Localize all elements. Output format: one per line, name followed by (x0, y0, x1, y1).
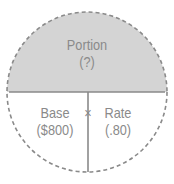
rate-value: (.80) (100, 121, 136, 138)
portion-value: (?) (53, 53, 121, 70)
portion-label: Portion (?) (53, 36, 121, 70)
rate-label: Rate (.80) (100, 104, 136, 138)
base-label: Base ($800) (34, 104, 77, 138)
multiply-icon: × (81, 104, 95, 121)
rate-text: Rate (100, 104, 136, 121)
portion-circle-diagram (0, 0, 174, 184)
portion-text: Portion (53, 36, 121, 53)
base-text: Base (34, 104, 77, 121)
base-value: ($800) (34, 121, 77, 138)
